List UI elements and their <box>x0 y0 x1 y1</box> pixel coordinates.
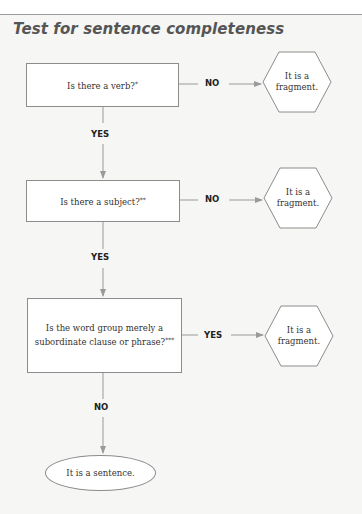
result-sentence: It is a sentence. <box>45 455 156 491</box>
branch-label-yes-1: YES <box>91 129 109 139</box>
result-text-line2: fragment. <box>277 198 319 209</box>
branch-label-no-2: NO <box>205 194 219 204</box>
decision-subordinate: Is the word group merely a subordinate c… <box>27 298 182 373</box>
result-text-line2: fragment. <box>276 82 318 93</box>
result-text-line1: It is a <box>277 187 319 198</box>
result-text-line1: It is a <box>278 325 320 336</box>
decision-verb: Is there a verb?* <box>26 63 179 107</box>
decision-verb-text: Is there a verb? <box>67 81 135 91</box>
footnote-mark: *** <box>165 336 174 343</box>
footnote-mark: * <box>135 80 138 87</box>
result-fragment-3: It is afragment. <box>264 305 334 367</box>
branch-label-yes-3: YES <box>204 330 222 340</box>
result-text-line2: fragment. <box>278 336 320 347</box>
decision-subject-text: Is there a subject? <box>60 197 140 207</box>
footnote-mark: ** <box>140 196 146 203</box>
result-fragment-2: It is afragment. <box>263 167 333 229</box>
branch-label-no-1: NO <box>205 78 219 88</box>
result-text-line1: It is a <box>276 71 318 82</box>
branch-label-yes-2: YES <box>91 252 109 262</box>
decision-subordinate-line1: Is the word group merely a <box>35 323 174 334</box>
decision-subject: Is there a subject?** <box>26 180 180 222</box>
result-fragment-1: It is afragment. <box>262 51 332 113</box>
branch-label-no-3: NO <box>94 402 108 412</box>
decision-subordinate-line2: subordinate clause or phrase? <box>35 337 165 347</box>
